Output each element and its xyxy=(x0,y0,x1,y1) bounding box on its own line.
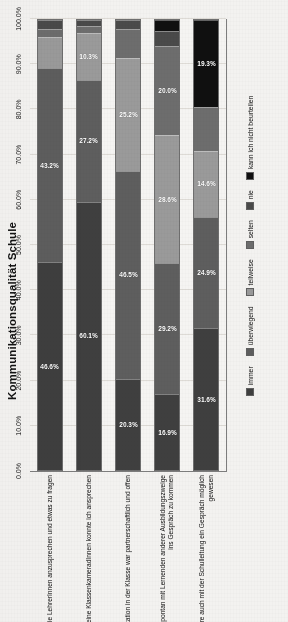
stacked-bar[interactable]: 31.6%24.9%14.6%19.3% xyxy=(193,19,219,471)
bar-segment-value-label: 43.2% xyxy=(40,162,58,169)
chart-figure: Kommunikationsqualität Schule 0.0%10.0%2… xyxy=(0,0,288,622)
bar-segment: 46.5% xyxy=(116,171,140,379)
legend-item[interactable]: überwiegend xyxy=(246,306,254,356)
legend-item[interactable]: selten xyxy=(246,220,254,249)
x-axis-tick-label: 100.0% xyxy=(15,7,22,31)
bar-segment-value-label: 31.6% xyxy=(197,396,215,403)
bar-segment: 28.6% xyxy=(155,135,179,263)
bar-segment-value-label: 19.3% xyxy=(197,60,215,67)
bar-segment xyxy=(38,37,62,68)
bar-segment xyxy=(155,31,179,46)
bar-segment-value-label: 29.2% xyxy=(158,326,176,333)
x-axis-tick-label: 70.0% xyxy=(15,145,22,165)
bar-segment xyxy=(77,20,101,26)
legend-swatch xyxy=(246,388,254,396)
bar-segment: 10.3% xyxy=(77,33,101,80)
legend-item[interactable]: teilweise xyxy=(246,259,254,296)
bar-segment-value-label: 14.6% xyxy=(197,181,215,188)
category-label: KO Schule3: Die Kommunikation in der Kla… xyxy=(124,475,132,622)
bar-segment-value-label: 46.6% xyxy=(40,363,58,370)
bar-segment: 46.6% xyxy=(38,262,62,470)
bar-segment-value-label: 28.6% xyxy=(158,196,176,203)
bar-segment xyxy=(38,29,62,38)
legend-swatch xyxy=(246,288,254,296)
bar-segment-value-label: 24.9% xyxy=(197,269,215,276)
legend-swatch xyxy=(246,348,254,356)
stacked-bar[interactable]: 16.9%29.2%28.6%20.0% xyxy=(154,19,180,471)
bar-segment: 14.6% xyxy=(194,151,218,217)
bar-segment: 29.2% xyxy=(155,263,179,394)
bar-segment xyxy=(116,29,140,57)
bar-segment xyxy=(116,20,140,29)
x-axis-tick-label: 90.0% xyxy=(15,54,22,74)
legend-label: selten xyxy=(247,220,254,238)
bar-row: 16.9%29.2%28.6%20.0%KO Schule4: Es gab i… xyxy=(154,19,180,471)
chart-title: Kommunikationsqualität Schule xyxy=(6,0,18,622)
legend-label: immer xyxy=(247,366,254,385)
bar-segment: 31.6% xyxy=(194,328,218,470)
bar-segment-value-label: 46.5% xyxy=(119,272,137,279)
bar-segment-value-label: 25.2% xyxy=(119,111,137,118)
legend-swatch xyxy=(246,202,254,210)
stacked-bar[interactable]: 46.6%43.2% xyxy=(37,19,63,471)
x-axis-tick-label: 80.0% xyxy=(15,99,22,119)
plot-area: 0.0%10.0%20.0%30.0%40.0%50.0%60.0%70.0%8… xyxy=(30,19,227,472)
x-axis-tick-label: 40.0% xyxy=(15,280,22,300)
bar-segment: 43.2% xyxy=(38,68,62,261)
legend-swatch xyxy=(246,241,254,249)
legend-label: nie xyxy=(247,190,254,199)
x-axis-tick-label: 30.0% xyxy=(15,325,22,345)
x-axis-tick-label: 50.0% xyxy=(15,235,22,255)
bar-segment-value-label: 16.9% xyxy=(158,429,176,436)
bar-segment-value-label: 60.1% xyxy=(80,333,98,340)
bar-segment-value-label: 20.0% xyxy=(158,87,176,94)
bar-segment-value-label: 27.2% xyxy=(80,138,98,145)
legend-item[interactable]: nie xyxy=(246,190,254,210)
legend-swatch xyxy=(246,172,254,180)
stacked-bar[interactable]: 20.3%46.5%25.2% xyxy=(115,19,141,471)
rotated-figure-wrapper: Kommunikationsqualität Schule 0.0%10.0%2… xyxy=(0,0,288,622)
bar-row: 31.6%24.9%14.6%19.3%KO Schule5: Wenn ich… xyxy=(193,19,219,471)
legend-label: teilweise xyxy=(247,259,254,285)
x-axis-tick-label: 60.0% xyxy=(15,190,22,210)
legend-label: kann ich nicht beurteilen xyxy=(247,96,254,169)
bar-segment: 16.9% xyxy=(155,394,179,470)
legend-item[interactable]: immer xyxy=(246,366,254,396)
bar-segment xyxy=(155,20,179,31)
bar-segment: 60.1% xyxy=(77,202,101,470)
bar-row: 20.3%46.5%25.2%KO Schule3: Die Kommunika… xyxy=(115,19,141,471)
bar-segment: 24.9% xyxy=(194,217,218,329)
legend-item[interactable]: kann ich nicht beurteilen xyxy=(246,96,254,180)
bar-segment xyxy=(38,20,62,29)
bar-row: 46.6%43.2%KO Schule1: Es gab in der Schu… xyxy=(37,19,63,471)
bar-segment xyxy=(194,107,218,151)
bar-segment: 19.3% xyxy=(194,20,218,107)
bar-segment: 27.2% xyxy=(77,80,101,202)
bar-segment: 20.3% xyxy=(116,379,140,470)
category-label: KO Schule2: Meine KlassenkameradInnen ko… xyxy=(85,475,93,622)
x-axis-tick-label: 10.0% xyxy=(15,416,22,436)
x-axis-tick-label: 0.0% xyxy=(15,463,22,479)
category-label: KO Schule4: Es gab in der Schule Gelegen… xyxy=(159,475,175,622)
bar-segment xyxy=(77,26,101,32)
bar-segment-value-label: 10.3% xyxy=(80,53,98,60)
bar-segment: 25.2% xyxy=(116,58,140,171)
bar-segment-value-label: 20.3% xyxy=(119,421,137,428)
bar-row: 60.1%27.2%10.3%KO Schule2: Meine Klassen… xyxy=(76,19,102,471)
chart-legend: immerüberwiegendteilweiseseltenniekann i… xyxy=(246,20,254,472)
bar-segment: 20.0% xyxy=(155,46,179,136)
legend-label: überwiegend xyxy=(247,306,254,345)
x-axis-tick-label: 20.0% xyxy=(15,371,22,391)
stacked-bar[interactable]: 60.1%27.2%10.3% xyxy=(76,19,102,471)
category-label: KO Schule1: Es gab in der Schule Gelegen… xyxy=(45,475,53,622)
category-label: KO Schule5: Wenn ich es gewollt hätte, w… xyxy=(198,475,214,622)
